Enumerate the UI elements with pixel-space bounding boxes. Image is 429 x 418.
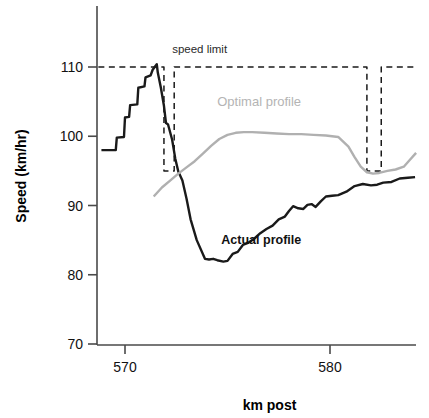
chart-canvas: 708090100110570580speed limitOptimal pro…: [0, 0, 429, 418]
y-axis-title: Speed (km/hr): [13, 129, 29, 222]
speed-profile-chart: 708090100110570580speed limitOptimal pro…: [0, 0, 429, 418]
x-axis-title: km post: [243, 397, 297, 413]
x-tick-label: 570: [113, 359, 137, 375]
series-optimal-profile: [154, 132, 416, 196]
speed-limit-label: speed limit: [172, 43, 228, 55]
y-tick-label: 90: [67, 198, 83, 214]
y-tick-label: 110: [61, 59, 84, 75]
x-tick-label: 580: [318, 359, 342, 375]
optimal-profile-label: Optimal profile: [217, 94, 301, 109]
y-tick-label: 80: [67, 267, 83, 283]
actual-profile-label: Actual profile: [221, 233, 301, 247]
y-tick-label: 100: [60, 128, 84, 144]
y-tick-label: 70: [67, 336, 83, 352]
